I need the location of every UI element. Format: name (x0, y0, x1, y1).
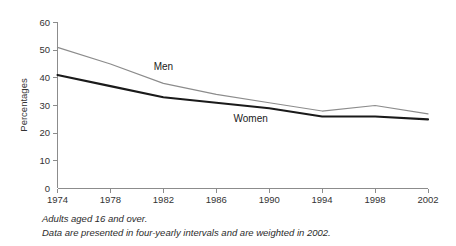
y-tick-label-40: 40 (39, 72, 50, 83)
y-tick-label-30: 30 (39, 100, 50, 111)
x-tick-label-1982: 1982 (153, 194, 174, 205)
series-label-women: Women (234, 113, 268, 124)
y-tick-label-20: 20 (39, 127, 50, 138)
footnote-line-1: Adults aged 16 and over. (41, 213, 147, 224)
x-tick-label-1998: 1998 (365, 194, 386, 205)
chart-figure: Percentages 60 50 40 30 20 10 0 1974 197… (0, 0, 456, 246)
x-tick-label-1978: 1978 (100, 194, 121, 205)
y-tick-label-10: 10 (39, 155, 50, 166)
footnote-line-2: Data are presented in four-yearly interv… (42, 227, 331, 238)
y-tick-label-60: 60 (39, 17, 50, 28)
y-tick-label-50: 50 (39, 44, 50, 55)
x-tick-label-2002: 2002 (417, 194, 438, 205)
series-line-men (58, 47, 429, 113)
y-tick-label-0: 0 (45, 183, 50, 194)
x-tick-label-1990: 1990 (259, 194, 280, 205)
series-label-men: Men (154, 61, 173, 72)
y-axis-title: Percentages (18, 78, 29, 132)
x-tick-label-1974: 1974 (47, 194, 68, 205)
x-tick-label-1994: 1994 (312, 194, 333, 205)
x-tick-label-1986: 1986 (206, 194, 227, 205)
line-chart: Percentages 60 50 40 30 20 10 0 1974 197… (0, 0, 456, 246)
